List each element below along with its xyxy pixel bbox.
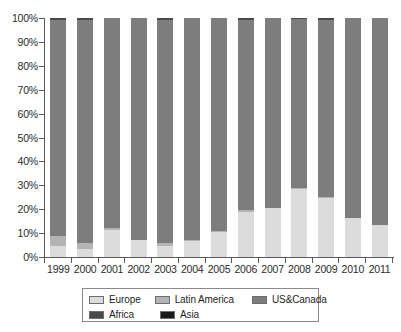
bar-segment xyxy=(131,240,147,257)
y-axis-tick-label: 90% xyxy=(18,36,38,48)
bar-segment xyxy=(211,18,227,231)
bar-segment xyxy=(372,225,388,257)
bar-column xyxy=(318,18,334,257)
stacked-bars xyxy=(45,18,393,257)
bar-column xyxy=(184,18,200,257)
y-axis-tick-label: 50% xyxy=(18,132,38,144)
bar-column xyxy=(265,18,281,257)
chart-legend: EuropeLatin AmericaUS&CanadaAfricaAsia xyxy=(82,288,319,322)
bar-column xyxy=(238,18,254,257)
bar-column xyxy=(372,18,388,257)
bar-segment xyxy=(238,20,254,210)
chart-figure: 0%10%20%30%40%50%60%70%80%90%100% 199920… xyxy=(0,0,401,332)
legend-item[interactable]: Latin America xyxy=(155,294,234,305)
y-axis-tick-label: 0% xyxy=(23,251,38,263)
bar-segment xyxy=(50,20,66,235)
bar-segment xyxy=(345,18,361,218)
x-axis-tick-label: 2010 xyxy=(342,263,365,275)
bar-segment xyxy=(265,18,281,208)
x-axis-tick-label: 2011 xyxy=(369,263,391,275)
legend-label: Europe xyxy=(109,294,141,305)
bar-segment xyxy=(157,246,173,257)
legend-label: Africa xyxy=(109,309,134,320)
bar-segment xyxy=(291,188,307,189)
bar-segment xyxy=(104,18,120,228)
bar-column xyxy=(104,18,120,257)
bar-segment xyxy=(131,18,147,240)
bar-column xyxy=(77,18,93,257)
bar-segment xyxy=(50,236,66,247)
y-axis-tick-label: 80% xyxy=(18,60,38,72)
x-axis-tick-label: 2002 xyxy=(127,263,150,275)
bar-segment xyxy=(157,18,173,20)
x-axis-tick-label: 2007 xyxy=(261,263,284,275)
bar-segment xyxy=(104,230,120,257)
bar-column xyxy=(291,18,307,257)
bar-column xyxy=(50,18,66,257)
y-axis-tick-label: 20% xyxy=(18,203,38,215)
legend-swatch-icon xyxy=(252,296,267,304)
legend-item[interactable]: Europe xyxy=(89,294,141,305)
bar-segment xyxy=(318,20,334,197)
bar-column xyxy=(157,18,173,257)
bar-segment xyxy=(104,228,120,229)
y-axis-tick-label: 10% xyxy=(18,227,38,239)
bar-segment xyxy=(50,18,66,20)
bar-segment xyxy=(157,20,173,242)
legend-item[interactable]: Africa xyxy=(89,309,134,320)
bar-segment xyxy=(238,18,254,20)
bar-column xyxy=(131,18,147,257)
legend-item[interactable]: US&Canada xyxy=(252,294,327,305)
legend-row: EuropeLatin AmericaUS&Canada xyxy=(89,293,312,306)
y-axis-tick-label: 40% xyxy=(18,155,38,167)
x-axis-tick-label: 2006 xyxy=(234,263,257,275)
bar-segment xyxy=(77,20,93,242)
legend-swatch-icon xyxy=(89,311,104,319)
x-axis-tick-label: 2003 xyxy=(154,263,177,275)
bar-segment xyxy=(184,18,200,240)
bar-segment xyxy=(372,18,388,225)
bar-segment xyxy=(184,241,200,257)
bar-column xyxy=(345,18,361,257)
y-axis-labels: 0%10%20%30%40%50%60%70%80%90%100% xyxy=(0,18,38,258)
x-axis-tick-label: 2001 xyxy=(101,263,124,275)
legend-swatch-icon xyxy=(89,296,104,304)
bar-segment xyxy=(238,210,254,211)
x-axis-tick-label: 1999 xyxy=(47,263,70,275)
x-axis-labels: 1999200020012002200320042005200620072008… xyxy=(44,263,394,279)
x-axis-tick-label: 2005 xyxy=(208,263,231,275)
bar-segment xyxy=(345,218,361,257)
bar-segment xyxy=(184,240,200,241)
bar-segment xyxy=(291,189,307,257)
legend-label: Asia xyxy=(180,309,199,320)
y-axis-tick-label: 30% xyxy=(18,179,38,191)
bar-segment xyxy=(77,249,93,257)
bar-segment xyxy=(265,208,281,257)
bar-segment xyxy=(318,18,334,20)
legend-swatch-icon xyxy=(160,311,175,319)
bar-segment xyxy=(211,232,227,257)
y-axis-tick-label: 100% xyxy=(12,12,38,24)
bar-segment xyxy=(318,197,334,198)
bar-segment xyxy=(291,18,307,19)
bar-segment xyxy=(211,231,227,232)
x-axis-tick-label: 2000 xyxy=(74,263,97,275)
legend-label: US&Canada xyxy=(272,294,327,305)
x-axis-tick-label: 2004 xyxy=(181,263,204,275)
legend-label: Latin America xyxy=(175,294,234,305)
bar-segment xyxy=(77,18,93,20)
x-axis-tick-label: 2008 xyxy=(288,263,311,275)
y-axis-tick-label: 70% xyxy=(18,84,38,96)
legend-swatch-icon xyxy=(155,296,170,304)
bar-segment xyxy=(157,243,173,247)
bar-column xyxy=(211,18,227,257)
bar-segment xyxy=(238,212,254,257)
x-axis-tick-label: 2009 xyxy=(315,263,338,275)
bar-segment xyxy=(50,246,66,257)
bar-segment xyxy=(291,19,307,187)
bar-segment xyxy=(318,198,334,257)
bar-segment xyxy=(77,243,93,249)
legend-item[interactable]: Asia xyxy=(160,309,199,320)
legend-row: AfricaAsia xyxy=(89,308,312,321)
y-axis-tick-label: 60% xyxy=(18,108,38,120)
